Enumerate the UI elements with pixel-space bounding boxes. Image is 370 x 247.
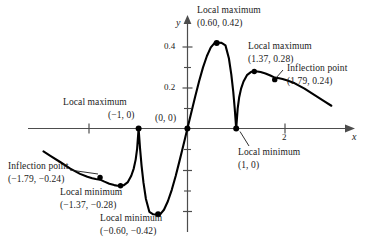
label-origin-coords: (0, 0) — [155, 112, 176, 124]
point-local-max-right — [252, 69, 257, 74]
label-inflection-left-title: Inflection point — [8, 160, 68, 173]
label-local-max-minus-one-title: Local maximum — [63, 96, 127, 108]
label-local-min-left-inner: Local minimum (−0.60, −0.42) — [100, 212, 162, 237]
label-inflection-right-coords: (1.79, 0.24) — [287, 75, 347, 88]
label-inflection-right-title: Inflection point — [287, 62, 347, 75]
label-local-min-left-outer: Local minimum (−1.37, −0.28) — [60, 186, 122, 211]
label-local-min-right: Local minimum (1, 0) — [238, 146, 300, 171]
leader-inflection-right — [276, 70, 283, 78]
point-local-max-peak — [214, 40, 220, 46]
label-inflection-left: Inflection point (−1.79, −0.24) — [8, 160, 68, 185]
y-tick-label-0-2: 0.2 — [164, 82, 175, 92]
label-local-min-right-title: Local minimum — [238, 146, 300, 159]
x-axis-label: x — [352, 131, 356, 142]
x-tick-label-2: 2 — [282, 132, 287, 142]
label-local-max-peak: Local maximum (0.60, 0.42) — [197, 4, 261, 29]
point-local-min-right — [233, 126, 239, 132]
label-local-min-left-outer-title: Local minimum — [60, 186, 122, 199]
label-inflection-right: Inflection point (1.79, 0.24) — [287, 62, 347, 87]
label-local-min-right-coords: (1, 0) — [238, 159, 300, 172]
label-local-max-minus-one-coords: (−1, 0) — [108, 109, 135, 121]
figure-container: Local maximum (0.60, 0.42) Local maximum… — [0, 0, 370, 247]
y-tick-label-0-4: 0.4 — [164, 41, 175, 51]
label-local-min-left-inner-coords: (−0.60, −0.42) — [100, 225, 162, 238]
label-local-max-peak-title: Local maximum — [197, 4, 261, 17]
label-inflection-left-coords: (−1.79, −0.24) — [8, 173, 68, 186]
label-local-min-left-outer-coords: (−1.37, −0.28) — [60, 199, 122, 212]
label-local-max-peak-coords: (0.60, 0.42) — [197, 17, 261, 30]
point-local-max-minus-one — [136, 126, 142, 132]
label-local-max-right-title: Local maximum — [248, 40, 312, 53]
point-origin — [184, 126, 190, 132]
function-graph — [0, 0, 370, 247]
x-axis — [28, 124, 355, 134]
point-inflection-left — [97, 175, 102, 180]
leader-local-min-right — [240, 132, 249, 147]
leader-inflection-left — [70, 170, 98, 174]
y-axis-label: y — [176, 17, 180, 28]
label-local-min-left-inner-title: Local minimum — [100, 212, 162, 225]
